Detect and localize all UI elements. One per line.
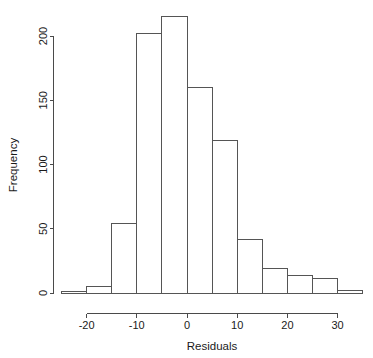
histogram-bars	[62, 17, 363, 293]
histogram-bar	[338, 290, 363, 293]
x-axis: -20-100102030	[79, 314, 344, 331]
y-axis-ticks	[50, 36, 54, 293]
histogram-bar	[237, 239, 262, 293]
histogram-bar	[137, 33, 162, 293]
histogram-bar	[62, 292, 87, 293]
y-tick-label: 50	[37, 223, 49, 235]
y-axis-title: Frequency	[7, 138, 19, 193]
chart-canvas: 050100150200 -20-100102030 Residuals Fre…	[0, 0, 373, 358]
histogram-bar	[212, 140, 237, 293]
histogram-bar	[262, 269, 287, 293]
x-axis-ticks	[87, 314, 338, 318]
y-tick-label: 100	[37, 155, 49, 173]
x-axis-tick-labels: -20-100102030	[79, 319, 344, 331]
y-axis: 050100150200	[37, 27, 53, 296]
y-tick-label: 200	[37, 27, 49, 45]
x-tick-label: 10	[231, 319, 243, 331]
histogram-bar	[162, 17, 187, 293]
histogram-bar	[287, 275, 312, 293]
x-axis-title: Residuals	[187, 340, 238, 352]
histogram-bar	[313, 279, 338, 293]
x-tick-label: 30	[331, 319, 343, 331]
histogram-bar	[112, 224, 137, 293]
histogram-bar	[187, 87, 212, 293]
x-tick-label: 0	[184, 319, 190, 331]
y-tick-label: 150	[37, 91, 49, 109]
x-tick-label: -20	[79, 319, 95, 331]
histogram-bar	[87, 287, 112, 293]
x-tick-label: -10	[129, 319, 145, 331]
x-tick-label: 20	[281, 319, 293, 331]
y-tick-label: 0	[37, 290, 49, 296]
y-axis-tick-labels: 050100150200	[37, 27, 49, 296]
histogram-plot: 050100150200 -20-100102030 Residuals Fre…	[0, 0, 373, 358]
